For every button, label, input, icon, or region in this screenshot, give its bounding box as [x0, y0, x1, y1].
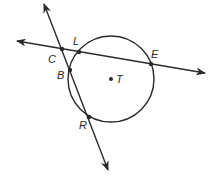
point-C	[60, 47, 64, 51]
label-T: T	[116, 74, 123, 85]
point-E	[149, 62, 153, 66]
geometry-diagram	[0, 0, 216, 185]
label-C: C	[48, 54, 56, 65]
point-T	[109, 77, 113, 81]
label-R: R	[79, 120, 87, 131]
point-L	[77, 50, 81, 54]
secant-line-CLE	[17, 41, 205, 73]
secant-line-CBR	[44, 4, 108, 170]
label-B: B	[57, 70, 64, 81]
label-L: L	[73, 36, 79, 47]
label-E: E	[151, 49, 158, 60]
point-R	[87, 115, 91, 119]
point-B	[68, 68, 72, 72]
